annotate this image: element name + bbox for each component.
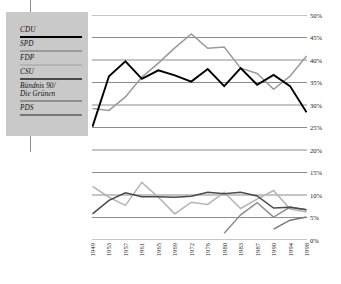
series-line-pds — [274, 217, 307, 229]
y-axis-tick-label: 5% — [310, 214, 319, 221]
y-axis-tick-label: 40% — [310, 57, 322, 64]
x-axis-tick-label: 1976 — [204, 243, 211, 256]
x-axis-tick-label: 1987 — [254, 243, 261, 256]
y-axis-tick-label: 45% — [310, 34, 322, 41]
legend-swatch — [20, 114, 82, 116]
series-line-fdp — [93, 182, 307, 214]
x-axis-tick-label: 1998 — [303, 243, 310, 256]
legend-item-label: CDU — [20, 26, 82, 35]
y-axis-tick-label: 30% — [310, 102, 322, 109]
line-chart-svg — [92, 15, 307, 240]
x-axis-tick-label: 1949 — [89, 243, 96, 256]
x-axis-tick-label: 1961 — [138, 243, 145, 256]
y-axis-tick-label: 0% — [310, 237, 319, 244]
legend-list: CDUSPDFDPCSUBündnis 90/Die GrünenPDS — [20, 26, 82, 118]
x-axis-tick-label: 1969 — [171, 243, 178, 256]
y-axis-tick-label: 35% — [310, 79, 322, 86]
legend-swatch — [20, 78, 82, 80]
legend-item-bndnis90[interactable]: Bündnis 90/Die Grünen — [20, 82, 82, 102]
legend-item-csu[interactable]: CSU — [20, 68, 82, 80]
series-line-spd — [93, 34, 307, 111]
legend-item-pds[interactable]: PDS — [20, 104, 82, 116]
x-axis-tick-label: 1972 — [188, 243, 195, 256]
y-axis-tick-label: 25% — [310, 124, 322, 131]
legend-swatch — [20, 100, 82, 102]
x-axis-tick-label: 1980 — [221, 243, 228, 256]
x-axis-tick-label: 1994 — [287, 243, 294, 256]
legend-panel: CDUSPDFDPCSUBündnis 90/Die GrünenPDS — [6, 12, 88, 136]
x-axis-labels: 1949195319571961196519691972197619801983… — [92, 243, 307, 283]
legend-swatch — [20, 64, 82, 66]
y-axis-tick-label: 50% — [310, 12, 322, 19]
x-axis-tick-label: 1983 — [237, 243, 244, 256]
legend-item-label: PDS — [20, 104, 82, 113]
y-axis-labels: 0%5%10%15%20%25%30%35%40%45%50% — [310, 15, 340, 240]
legend-item-label: Bündnis 90/Die Grünen — [20, 82, 82, 99]
y-axis-tick-label: 15% — [310, 169, 322, 176]
legend-item-cdu[interactable]: CDU — [20, 26, 82, 38]
series-line-cdu — [93, 61, 307, 126]
legend-item-spd[interactable]: SPD — [20, 40, 82, 52]
y-axis-tick-label: 20% — [310, 147, 322, 154]
legend-swatch — [20, 36, 82, 38]
chart-page: CDUSPDFDPCSUBündnis 90/Die GrünenPDS 0%5… — [0, 0, 341, 284]
x-axis-tick-label: 1990 — [270, 243, 277, 256]
x-axis-tick-label: 1965 — [155, 243, 162, 256]
legend-item-label: FDP — [20, 54, 82, 63]
plot-area — [92, 15, 307, 240]
x-axis-tick-label: 1957 — [122, 243, 129, 256]
y-axis-tick-label: 10% — [310, 192, 322, 199]
x-axis-tick-label: 1953 — [105, 243, 112, 256]
legend-swatch — [20, 50, 82, 52]
legend-item-label: CSU — [20, 68, 82, 77]
legend-item-label: SPD — [20, 40, 82, 49]
legend-item-fdp[interactable]: FDP — [20, 54, 82, 66]
